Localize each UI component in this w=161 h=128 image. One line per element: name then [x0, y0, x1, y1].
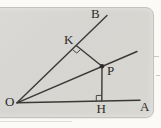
segment-KP — [77, 46, 103, 67]
label-K: K — [64, 32, 74, 47]
label-A: A — [140, 99, 150, 114]
label-P: P — [107, 63, 114, 78]
label-H: H — [97, 101, 106, 116]
label-O: O — [5, 94, 14, 109]
ray-OA-line — [17, 100, 140, 103]
ray-OP-line — [17, 52, 137, 103]
right-angle-mark-K — [73, 49, 81, 53]
geometry-diagram: B K P O H A — [0, 0, 161, 128]
point-P-dot — [100, 64, 105, 69]
page: B K P O H A — [0, 0, 161, 128]
label-B: B — [91, 6, 100, 21]
